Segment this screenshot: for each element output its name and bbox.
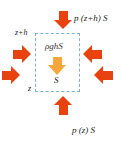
right-lower-pressure-arrow-icon <box>94 66 113 85</box>
weight-arrow-icon <box>48 57 67 75</box>
arrow-head <box>48 65 66 75</box>
hydrostatic-pressure-diagram: p (z+h) S p (z) S z+h z ρghS S <box>0 0 122 144</box>
arrow-head <box>94 66 103 84</box>
arrow-head <box>83 45 92 63</box>
arrow-head <box>22 45 31 63</box>
arrow-shaft <box>59 105 68 115</box>
right-upper-pressure-arrow-icon <box>83 45 102 64</box>
left-upper-pressure-arrow-icon <box>13 45 32 64</box>
bottom-height-label: z <box>28 85 31 93</box>
weight-label: ρghS <box>45 42 63 51</box>
arrow-shaft <box>92 50 102 59</box>
arrow-head <box>11 66 20 84</box>
arrow-head <box>54 96 72 105</box>
top-force-label: p (z+h) S <box>74 14 108 23</box>
top-height-label: z+h <box>15 29 28 37</box>
bottom-pressure-arrow-icon <box>54 96 73 115</box>
area-label: S <box>54 76 59 85</box>
arrow-head <box>54 20 72 29</box>
top-pressure-arrow-icon <box>54 11 73 30</box>
left-lower-pressure-arrow-icon <box>2 66 21 85</box>
arrow-shaft <box>103 71 113 80</box>
bottom-force-label: p (z) S <box>72 126 95 135</box>
